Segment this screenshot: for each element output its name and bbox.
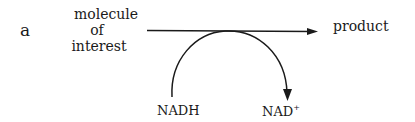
nad-charge: + (293, 103, 300, 112)
nad-base: NAD (262, 104, 293, 119)
cofactor-arc (172, 31, 287, 97)
cofactor-arrowhead-icon (283, 89, 292, 101)
product-label: product (333, 19, 389, 33)
main-arrowhead-icon (307, 28, 318, 35)
nadh-label: NADH (157, 104, 200, 117)
nad-plus-label: NAD+ (262, 104, 300, 118)
